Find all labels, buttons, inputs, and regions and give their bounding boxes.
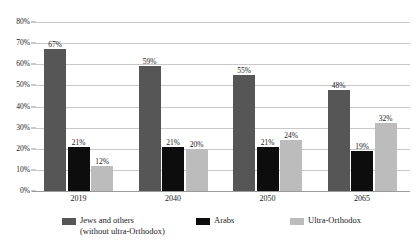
y-axis-tick-label: 30%: [0, 124, 30, 132]
bar-value-label: 59%: [143, 57, 157, 66]
legend-label: Jews and others (without ultra-Orthodox): [80, 215, 165, 236]
legend-color-swatch: [290, 218, 304, 225]
bar[interactable]: 59%: [139, 66, 161, 191]
y-axis-tick-label: 60%: [0, 60, 30, 68]
bar-value-label: 21%: [166, 138, 180, 147]
y-axis-tick-label: 80%: [0, 18, 30, 26]
bar[interactable]: 21%: [257, 147, 279, 191]
legend-color-swatch: [62, 218, 76, 225]
y-axis-tick-label: 40%: [0, 103, 30, 111]
legend-item[interactable]: Arabs: [196, 215, 234, 226]
legend-item[interactable]: Jews and others (without ultra-Orthodox): [62, 215, 165, 236]
bar-value-label: 67%: [48, 40, 62, 49]
bar-group: 59%21%20%: [139, 22, 208, 191]
bar-value-label: 21%: [261, 138, 275, 147]
axis-baseline: [32, 191, 410, 192]
population-projection-bar-chart: 0%10%20%30%40%50%60%70%80% 67%21%12%2019…: [0, 0, 417, 251]
legend-item[interactable]: Ultra-Orthodox: [290, 215, 361, 226]
bar-value-label: 20%: [190, 140, 204, 149]
x-axis-tick-label: 2019: [71, 194, 87, 204]
bar-value-label: 55%: [237, 66, 251, 75]
y-axis-tick-label: 10%: [0, 166, 30, 174]
y-axis-tick-label: 20%: [0, 145, 30, 153]
x-axis-tick-label: 2050: [260, 194, 276, 204]
y-axis-tick-label: 0%: [0, 187, 30, 195]
bar[interactable]: 12%: [91, 166, 113, 191]
bar-group: 67%21%12%: [44, 22, 113, 191]
bar-value-label: 12%: [95, 157, 109, 166]
chart-legend: Jews and others (without ultra-Orthodox)…: [0, 213, 417, 251]
x-axis-tick-label: 2065: [354, 194, 370, 204]
bar[interactable]: 67%: [44, 49, 66, 191]
bar-group: 48%19%32%: [328, 22, 397, 191]
bar[interactable]: 48%: [328, 90, 350, 191]
bar-group: 55%21%24%: [233, 22, 302, 191]
legend-label: Arabs: [214, 215, 234, 226]
bar[interactable]: 20%: [186, 149, 208, 191]
bar-value-label: 48%: [332, 81, 346, 90]
legend-label: Ultra-Orthodox: [308, 215, 361, 226]
bar[interactable]: 21%: [162, 147, 184, 191]
y-axis-tick-label: 70%: [0, 39, 30, 47]
bar[interactable]: 55%: [233, 75, 255, 191]
bar-value-label: 24%: [284, 131, 298, 140]
bar[interactable]: 21%: [68, 147, 90, 191]
y-axis-tick-label: 50%: [0, 81, 30, 89]
bar[interactable]: 24%: [280, 140, 302, 191]
bar-value-label: 32%: [379, 114, 393, 123]
bar[interactable]: 19%: [351, 151, 373, 191]
bar-value-label: 21%: [72, 138, 86, 147]
x-axis-tick-label: 2040: [165, 194, 181, 204]
plot-area: 67%21%12%201959%21%20%204055%21%24%20504…: [32, 22, 410, 191]
bar-value-label: 19%: [355, 142, 369, 151]
bar[interactable]: 32%: [375, 123, 397, 191]
legend-color-swatch: [196, 218, 210, 225]
